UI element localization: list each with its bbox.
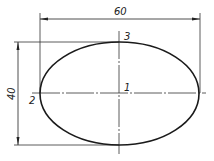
height-dimension-label: 40 xyxy=(6,87,17,100)
point-label-top: 3 xyxy=(124,31,130,42)
technical-drawing: 60 40 1 2 3 xyxy=(0,0,214,161)
point-label-left: 2 xyxy=(29,95,35,106)
width-dimension-label: 60 xyxy=(114,6,127,17)
ellipse-outline xyxy=(40,42,199,145)
point-label-center: 1 xyxy=(124,82,130,93)
